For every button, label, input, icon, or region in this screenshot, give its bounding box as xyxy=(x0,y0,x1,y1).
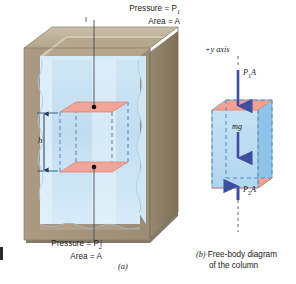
pressure-p1-line1: Pressure = P1 xyxy=(129,4,180,13)
force-label-p1a: P1A xyxy=(243,68,256,81)
height-label-h: h xyxy=(38,135,42,146)
tank-right-wall xyxy=(150,31,178,238)
tank-assembly xyxy=(24,27,178,243)
pressure-p1-label: Pressure = P1 Area = A xyxy=(92,4,180,28)
caption-panel-b: (b) Free-body diagram of the column xyxy=(196,249,277,271)
force-label-p2a: P2A xyxy=(243,185,256,198)
bottom-face-center-dot xyxy=(92,165,97,170)
fbd-box-side-face xyxy=(258,100,272,188)
caption-b-line2: of the column xyxy=(209,261,258,270)
pressure-p2-line1: Pressure = P2 xyxy=(51,239,102,248)
pressure-p2-label: Pressure = P2 Area = A xyxy=(14,239,102,263)
water-surface xyxy=(40,56,140,60)
area-a-bottom-line: Area = A xyxy=(70,252,102,261)
top-face-center-dot xyxy=(92,105,97,110)
free-body-diagram xyxy=(212,56,272,232)
caption-panel-a: (a) xyxy=(118,262,128,273)
force-label-mg: mg xyxy=(232,122,242,133)
y-axis-label: +y axis xyxy=(205,45,229,56)
water-body xyxy=(40,56,140,224)
area-a-top-line: Area = A xyxy=(148,17,180,26)
page-edge-mark xyxy=(0,247,3,260)
caption-b-line1: Free-body diagram xyxy=(208,250,277,259)
caption-b-marker: (b) xyxy=(196,250,206,259)
